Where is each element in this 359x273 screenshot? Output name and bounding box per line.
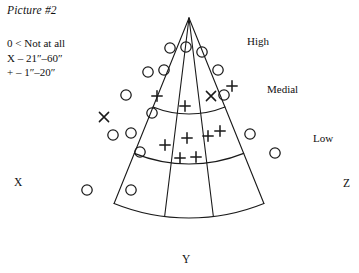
band-label-high: High — [247, 35, 270, 47]
marker-x — [206, 91, 215, 100]
band-arc-1 — [134, 153, 243, 164]
marker-plus — [191, 152, 201, 162]
corner-label-y: Y — [182, 253, 191, 265]
marker-circle — [108, 130, 118, 140]
marker-plus — [160, 140, 170, 150]
fan-labels: High Medial Low X Y Z — [14, 35, 350, 265]
band-label-low: Low — [313, 132, 333, 144]
fan-markers — [82, 42, 280, 195]
marker-circle — [245, 129, 255, 139]
marker-x — [99, 112, 108, 121]
corner-label-z: Z — [343, 177, 350, 189]
marker-circle — [270, 148, 280, 158]
marker-circle — [213, 65, 223, 75]
band-arc-2 — [114, 203, 264, 218]
marker-circle — [143, 67, 153, 77]
marker-plus — [152, 91, 162, 101]
marker-circle — [197, 47, 207, 57]
band-label-medial: Medial — [267, 83, 298, 95]
marker-circle — [82, 185, 92, 195]
band-arc-0 — [153, 107, 225, 114]
fan-geometry — [114, 18, 264, 218]
fan-diagram: High Medial Low X Y Z — [0, 0, 359, 273]
marker-plus — [180, 101, 190, 111]
marker-plus — [227, 81, 237, 91]
marker-circle — [126, 185, 136, 195]
corner-label-x: X — [14, 176, 23, 188]
marker-circle — [165, 43, 175, 53]
marker-circle — [121, 90, 131, 100]
marker-plus — [215, 126, 225, 136]
figure-root: Picture #2 0 < Not at all X – 21″–60″ + … — [0, 0, 359, 273]
marker-plus — [175, 153, 185, 163]
marker-circle — [126, 128, 136, 138]
marker-plus — [182, 133, 192, 143]
